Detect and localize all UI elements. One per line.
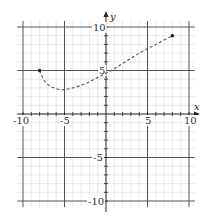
y-tick-label: 5 bbox=[99, 65, 105, 76]
coordinate-plane: x y -10 -5 5 10 10 5 -5 -10 bbox=[0, 0, 211, 222]
x-tick-label: 10 bbox=[184, 115, 197, 126]
x-tick-label: 5 bbox=[145, 115, 151, 126]
end-point-marker bbox=[171, 34, 175, 38]
y-tick-label: -10 bbox=[88, 196, 104, 207]
y-tick-label: 10 bbox=[93, 22, 106, 33]
y-axis-label: y bbox=[109, 11, 116, 22]
x-axis-label: x bbox=[194, 101, 200, 112]
x-tick-label: -5 bbox=[60, 115, 70, 126]
x-tick-label: -10 bbox=[13, 115, 29, 126]
start-point-marker bbox=[38, 69, 42, 73]
y-tick-label: -5 bbox=[93, 152, 103, 163]
y-axis-arrow-icon bbox=[104, 11, 109, 17]
